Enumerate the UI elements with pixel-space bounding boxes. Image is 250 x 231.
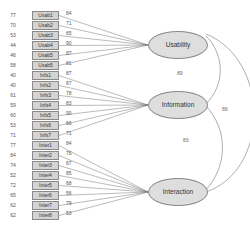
factor-loading: 71 — [66, 20, 72, 26]
corr-label-usab-inter: 89 — [222, 106, 228, 112]
latent-interaction: Interaction — [148, 178, 208, 206]
error-variance: 72 — [2, 181, 24, 189]
error-variance: 60 — [2, 111, 24, 119]
error-variance: 40 — [2, 81, 24, 89]
indicator-box: Inter8 — [32, 211, 59, 220]
indicator-box: Usab5 — [32, 51, 59, 60]
error-variance: 74 — [2, 161, 24, 169]
factor-loading: 71 — [66, 130, 72, 136]
latent-information: Information — [148, 91, 208, 119]
factor-loading: 67 — [66, 160, 72, 166]
loading-path — [59, 192, 148, 206]
factor-loading: 68 — [66, 180, 72, 186]
indicator-box: Inter6 — [32, 191, 59, 200]
loading-path — [59, 166, 148, 193]
factor-loading: 84 — [66, 10, 72, 16]
error-variance: 61 — [2, 91, 24, 99]
indicator-box: Usab5 — [32, 61, 59, 70]
latent-usability: Usability — [148, 31, 208, 59]
factor-loading: 65 — [66, 30, 72, 36]
loading-path — [59, 96, 148, 106]
indicator-box: Inter1 — [32, 141, 59, 150]
loading-path — [59, 146, 148, 193]
indicator-box: Infs7 — [32, 131, 59, 140]
indicator-box: Usab3 — [32, 31, 59, 40]
loading-path — [59, 176, 148, 193]
factor-loading: 87 — [66, 50, 72, 56]
factor-loading: 81 — [66, 60, 72, 66]
indicator-box: Infs1 — [32, 71, 59, 80]
factor-loading: 90 — [66, 40, 72, 46]
loading-path — [59, 192, 148, 216]
error-variance: 77 — [2, 11, 24, 19]
error-variance: 71 — [2, 131, 24, 139]
error-variance: 62 — [2, 201, 24, 209]
factor-loading: 84 — [66, 140, 72, 146]
error-variance: 59 — [2, 101, 24, 109]
error-variance: 46 — [2, 51, 24, 59]
factor-loading: 67 — [66, 80, 72, 86]
loading-path — [59, 105, 148, 126]
error-variance: 70 — [2, 21, 24, 29]
error-variance: 53 — [2, 31, 24, 39]
loading-path — [59, 36, 148, 46]
corr-arc-usab-info — [206, 36, 220, 104]
corr-label-usab-info: 89 — [177, 70, 183, 76]
corr-label-info-inter: 83 — [183, 137, 189, 143]
error-variance: 58 — [2, 61, 24, 69]
indicator-box: Inter7 — [32, 201, 59, 210]
error-variance: 44 — [2, 41, 24, 49]
loading-path — [59, 105, 148, 106]
loading-path — [59, 45, 148, 66]
factor-loading: 87 — [66, 70, 72, 76]
error-variance: 53 — [2, 121, 24, 129]
factor-loading: 85 — [66, 170, 72, 176]
loading-path — [59, 86, 148, 106]
indicator-box: Infs6 — [32, 121, 59, 130]
error-variance: 77 — [2, 141, 24, 149]
error-variance: 84 — [2, 151, 24, 159]
error-variance: 62 — [2, 211, 24, 219]
factor-loading: 53 — [66, 210, 72, 216]
factor-loading: 90 — [66, 110, 72, 116]
loading-path — [59, 45, 148, 46]
indicator-box: Inter5 — [32, 181, 59, 190]
indicator-box: Inter3 — [32, 161, 59, 170]
factor-loading: 66 — [66, 120, 72, 126]
error-variance: 65 — [2, 191, 24, 199]
corr-arc-usab-inter — [206, 34, 250, 192]
loading-path — [59, 76, 148, 106]
loading-path — [59, 45, 148, 56]
indicator-box: Infs2 — [32, 81, 59, 90]
loading-path — [59, 105, 148, 116]
loading-path — [59, 105, 148, 136]
factor-loading: 78 — [66, 90, 72, 96]
indicator-box: Usab2 — [32, 21, 59, 30]
indicator-box: Infs3 — [32, 91, 59, 100]
corr-arc-info-inter — [206, 106, 223, 190]
error-variance: 52 — [2, 171, 24, 179]
indicator-box: Infs4 — [32, 101, 59, 110]
loading-path — [59, 16, 148, 46]
loading-path — [59, 192, 148, 196]
factor-loading: 56 — [66, 190, 72, 196]
indicator-box: Inter2 — [32, 151, 59, 160]
factor-loading: 79 — [66, 200, 72, 206]
error-variance: 40 — [2, 71, 24, 79]
indicator-box: Usab4 — [32, 41, 59, 50]
loading-path — [59, 26, 148, 46]
factor-loading: 76 — [66, 150, 72, 156]
indicator-box: Infs5 — [32, 111, 59, 120]
indicator-box: Usab1 — [32, 11, 59, 20]
factor-loading: 83 — [66, 100, 72, 106]
indicator-box: Inter4 — [32, 171, 59, 180]
